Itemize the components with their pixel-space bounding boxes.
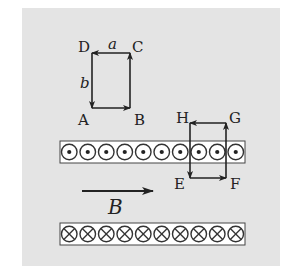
dot-icon bbox=[160, 150, 164, 154]
dot-icon bbox=[67, 150, 71, 154]
vertex-label-a: A bbox=[77, 111, 89, 129]
vertex-label-g: G bbox=[229, 109, 241, 127]
vertex-label-b: B bbox=[134, 111, 145, 129]
physics-diagram: D C A B a b H G E F B bbox=[0, 0, 294, 277]
loop-abcd bbox=[92, 53, 130, 108]
dot-icon bbox=[178, 150, 182, 154]
side-label-a: a bbox=[108, 35, 117, 53]
vertex-label-c: C bbox=[132, 38, 143, 56]
dot-icon bbox=[215, 150, 219, 154]
dot-icon bbox=[123, 150, 127, 154]
dot-icon bbox=[141, 150, 145, 154]
dot-icon bbox=[104, 150, 108, 154]
side-label-b: b bbox=[80, 74, 90, 92]
vertex-label-e: E bbox=[174, 175, 185, 193]
vertex-label-f: F bbox=[230, 175, 240, 193]
field-label-b: B bbox=[107, 195, 123, 219]
vertex-label-d: D bbox=[78, 38, 90, 56]
dot-icon bbox=[234, 150, 238, 154]
dot-icon bbox=[86, 150, 90, 154]
vertex-label-h: H bbox=[176, 109, 189, 127]
wire-sheet-bottom bbox=[60, 223, 245, 245]
wire-sheet-top bbox=[60, 141, 245, 163]
dot-icon bbox=[197, 150, 201, 154]
